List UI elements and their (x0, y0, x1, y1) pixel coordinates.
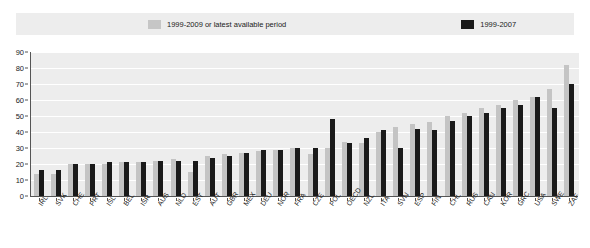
bar-group (287, 52, 304, 196)
bar-dark (244, 153, 249, 196)
bar-dark (227, 156, 232, 196)
bar-dark (569, 84, 574, 196)
legend-swatch-light (148, 20, 161, 29)
bar-group (133, 52, 150, 196)
bar-group (304, 52, 321, 196)
bar-group (99, 52, 116, 196)
legend-label-1: 1999-2007 (480, 20, 516, 29)
bar-dark (193, 161, 198, 196)
bar-dark (450, 121, 455, 196)
y-axis-tick-label: 80 (0, 64, 24, 73)
bar-group (150, 52, 167, 196)
bar-dark (313, 148, 318, 196)
bar-dark (415, 129, 420, 196)
bar-dark (261, 150, 266, 196)
bar-dark (210, 158, 215, 196)
bar-group (47, 52, 64, 196)
legend-entry-1: 1999-2007 (461, 20, 516, 29)
bar-group (236, 52, 253, 196)
y-axis-tick-mark (25, 100, 28, 101)
x-label-slot: PRT (81, 198, 98, 244)
bar-dark (381, 130, 386, 196)
y-axis-tick-mark (25, 148, 28, 149)
bar-group (355, 52, 372, 196)
bar-dark (90, 164, 95, 196)
x-label-slot: ITA (373, 198, 390, 244)
bar-dark (330, 119, 335, 196)
bar-dark (107, 162, 112, 196)
bar-group (527, 52, 544, 196)
bar-dark (124, 162, 129, 196)
bar-group (201, 52, 218, 196)
x-label-slot: NZL (355, 198, 372, 244)
bar-dark (535, 97, 540, 196)
x-label-slot: CZE (304, 198, 321, 244)
bar-dark (278, 150, 283, 196)
bar-group (424, 52, 441, 196)
x-label-slot: NOR (270, 198, 287, 244)
bar-dark (398, 148, 403, 196)
bar-dark (552, 108, 557, 196)
bar-group (561, 52, 578, 196)
x-label-slot: FIN (424, 198, 441, 244)
y-axis-tick-label: 0 (0, 192, 24, 201)
x-label-slot: MEX (236, 198, 253, 244)
y-axis-tick-label: 40 (0, 128, 24, 137)
x-label-slot: IRL (30, 198, 47, 244)
bar-dark (295, 148, 300, 196)
y-axis-tick-label: 60 (0, 96, 24, 105)
legend-label-0: 1999-2009 or latest available period (167, 20, 286, 29)
bar-series-container (30, 52, 578, 196)
bar-group (338, 52, 355, 196)
x-label-slot: RUS (458, 198, 475, 244)
x-label-slot: OECD (338, 198, 355, 244)
bar-group (544, 52, 561, 196)
bar-group (184, 52, 201, 196)
bar-group (218, 52, 235, 196)
bar-group (458, 52, 475, 196)
bar-group (441, 52, 458, 196)
y-axis-tick-mark (25, 52, 28, 53)
x-label-slot: ISL (99, 198, 116, 244)
bar-dark (432, 130, 437, 196)
bar-group (167, 52, 184, 196)
bar-group (270, 52, 287, 196)
bar-dark (158, 161, 163, 196)
x-label-slot: GRC (510, 198, 527, 244)
x-axis-labels: IRLSVKCHEPRTISLBELISRAUSNLDESTAUTGBRMEXD… (30, 198, 578, 244)
bar-group (253, 52, 270, 196)
bar-group (492, 52, 509, 196)
y-axis-tick-mark (25, 164, 28, 165)
y-axis-tick-mark (25, 132, 28, 133)
x-label-slot: ZAF (561, 198, 578, 244)
bar-group (81, 52, 98, 196)
x-label-slot: DEU (253, 198, 270, 244)
bar-group (116, 52, 133, 196)
bar-group (390, 52, 407, 196)
bar-group (64, 52, 81, 196)
x-label-slot: CHL (441, 198, 458, 244)
legend-swatch-dark (461, 20, 474, 29)
y-axis-tick-mark (25, 68, 28, 69)
x-label-slot: BEL (116, 198, 133, 244)
y-axis-tick-label: 70 (0, 80, 24, 89)
y-axis: 0102030405060708090 (0, 46, 28, 202)
x-label-slot: CHE (64, 198, 81, 244)
y-axis-tick-label: 30 (0, 144, 24, 153)
x-label-slot: KOR (492, 198, 509, 244)
bar-dark (364, 138, 369, 196)
y-axis-tick-label: 20 (0, 160, 24, 169)
bar-dark (484, 113, 489, 196)
x-label-slot: AUS (150, 198, 167, 244)
x-label-slot: POL (321, 198, 338, 244)
y-axis-tick-mark (25, 196, 28, 197)
bar-group (373, 52, 390, 196)
bar-dark (141, 162, 146, 196)
x-label-slot: FRA (287, 198, 304, 244)
bar-dark (39, 170, 44, 196)
legend-entry-0: 1999-2009 or latest available period (148, 20, 286, 29)
x-label-slot: EST (184, 198, 201, 244)
x-label-slot: SVN (390, 198, 407, 244)
bar-group (475, 52, 492, 196)
y-axis-tick-label: 90 (0, 48, 24, 57)
